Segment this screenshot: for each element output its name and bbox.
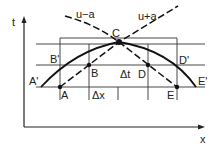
label-a-prime: A': [29, 75, 38, 87]
node-e: [175, 85, 179, 89]
label-b-prime: B': [50, 53, 59, 65]
label-dx: Δx: [92, 89, 105, 101]
label-u-plus-a: u+a: [138, 10, 158, 22]
node-d: [146, 63, 150, 67]
grid-vertical: [60, 38, 177, 100]
t-axis-arrow-icon: [22, 16, 27, 23]
t-axis-label: t: [12, 16, 15, 28]
node-c: [116, 39, 122, 45]
characteristics-diagram: t x u−a u+a C B' B A' A Δx Δt D D' E E': [0, 0, 224, 147]
label-dt: Δt: [120, 68, 130, 80]
label-d: D: [138, 68, 146, 80]
label-u-minus-a: u−a: [76, 8, 96, 20]
x-axis-arrow-icon: [198, 125, 205, 130]
label-c: C: [112, 27, 120, 39]
label-e-prime: E': [198, 75, 207, 87]
nodes: [58, 39, 179, 89]
label-e: E: [167, 89, 174, 101]
label-a: A: [61, 89, 69, 101]
label-d-prime: D': [179, 54, 189, 66]
label-b: B: [91, 67, 98, 79]
x-axis-label: x: [200, 133, 206, 145]
